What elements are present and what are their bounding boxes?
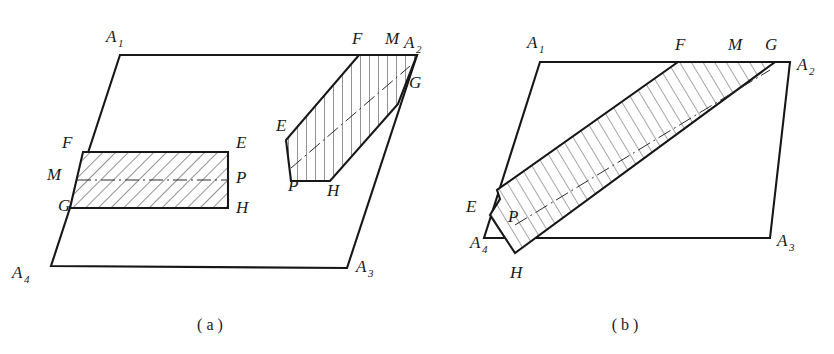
label-A4-b: A [469, 233, 481, 252]
label-H-b: H [509, 263, 524, 282]
label-G-b: G [765, 35, 777, 54]
label-M-rect-a: M [46, 165, 62, 184]
label-P-b: P [507, 207, 518, 226]
label-A1-sub-a: 1 [118, 37, 124, 49]
label-A1-a: A [105, 27, 117, 46]
geometry-figure-svg: A 1 A 2 A 3 A 4 F M G E P H F M [0, 0, 834, 354]
hatched-tilted-band-a [275, 45, 430, 195]
label-P-rect-a: P [235, 168, 246, 187]
label-A4-sub-b: 4 [482, 243, 488, 255]
label-A2-sub-b: 2 [809, 65, 815, 77]
label-E-rect-a: E [235, 133, 247, 152]
hatched-rectangle-band-a [55, 140, 245, 225]
label-A3-a: A [355, 257, 367, 276]
label-A4-a: A [11, 263, 23, 282]
label-F-b: F [674, 35, 686, 54]
label-F-rect-a: F [61, 133, 73, 152]
panel-b: A 1 A 2 A 3 A 4 F M G E P H ( b ) [465, 33, 815, 334]
label-A4-sub-a: 4 [24, 273, 30, 285]
label-G-rect-a: G [58, 196, 70, 215]
caption-panel-b: ( b ) [612, 316, 639, 334]
geometry-figure-root: A 1 A 2 A 3 A 4 F M G E P H F M [0, 0, 834, 354]
label-A2-a: A [403, 33, 415, 52]
label-E-b: E [465, 197, 477, 216]
label-A1-b: A [526, 33, 538, 52]
label-F-tilt-a: F [351, 29, 363, 48]
label-G-tilt-a: G [409, 73, 421, 92]
label-H-rect-a: H [235, 198, 250, 217]
caption-panel-a: ( a ) [197, 316, 223, 334]
label-A2-sub-a: 2 [416, 43, 422, 55]
label-E-tilt-a: E [275, 116, 287, 135]
label-M-tilt-a: M [384, 29, 400, 48]
hatched-band-b [480, 55, 790, 260]
label-H-tilt-a: H [326, 181, 341, 200]
panel-a: A 1 A 2 A 3 A 4 F M G E P H F M [11, 27, 430, 334]
label-M-b: M [727, 35, 743, 54]
label-A2-b: A [796, 55, 808, 74]
label-A3-sub-b: 3 [788, 241, 795, 253]
label-A3-b: A [776, 231, 788, 250]
label-P-tilt-a: P [287, 176, 298, 195]
label-A1-sub-b: 1 [539, 43, 545, 55]
label-A3-sub-a: 3 [367, 267, 374, 279]
